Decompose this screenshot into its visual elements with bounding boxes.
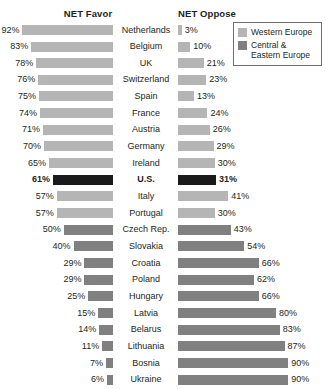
chart-row: 40%Slovakia54% — [0, 239, 326, 256]
net-oppose-bar — [178, 108, 207, 118]
net-oppose-value: 23% — [209, 74, 227, 84]
net-oppose-value: 30% — [218, 208, 236, 218]
country-label: Germany — [116, 141, 176, 151]
net-oppose-bar — [178, 75, 206, 85]
net-favor-bar — [49, 158, 113, 168]
net-favor-bar — [43, 125, 113, 135]
net-favor-bar — [53, 175, 113, 185]
country-label: U.S. — [116, 174, 176, 184]
net-oppose-bar — [178, 125, 210, 135]
net-oppose-value: 13% — [197, 91, 215, 101]
net-favor-bar — [36, 58, 113, 68]
chart-row: 70%Germany29% — [0, 139, 326, 156]
net-favor-value: 65% — [28, 158, 46, 168]
country-label: Latvia — [116, 308, 176, 318]
net-oppose-value: 3% — [185, 25, 198, 35]
net-oppose-bar — [178, 291, 259, 301]
net-oppose-bar — [178, 91, 194, 101]
country-label: Austria — [116, 124, 176, 134]
net-favor-bar — [99, 325, 113, 335]
net-oppose-bar — [178, 308, 276, 318]
country-label: Belgium — [116, 41, 176, 51]
legend-item-label: Central & Eastern Europe — [251, 40, 310, 61]
net-favor-value: 11% — [82, 341, 99, 351]
net-oppose-bar — [178, 175, 216, 185]
chart-row: 57%Italy41% — [0, 189, 326, 206]
net-favor-bar — [38, 75, 113, 85]
net-oppose-value: 62% — [257, 274, 275, 284]
net-favor-bar — [84, 275, 113, 285]
legend-item: Western Europe — [238, 27, 317, 38]
net-favor-bar — [57, 191, 113, 201]
net-favor-bar — [31, 42, 113, 52]
chart-row: 14%Belarus83% — [0, 322, 326, 339]
country-label: Slovakia — [116, 241, 176, 251]
net-favor-value: 75% — [18, 91, 36, 101]
chart-row: 29%Poland62% — [0, 272, 326, 289]
chart-row: 15%Latvia80% — [0, 306, 326, 323]
net-favor-value: 25% — [67, 291, 85, 301]
chart-row: 57%Portugal30% — [0, 206, 326, 223]
net-favor-bar — [98, 308, 113, 318]
net-oppose-bar — [178, 325, 280, 335]
country-label: Lithuania — [116, 341, 176, 351]
net-oppose-bar — [178, 208, 215, 218]
net-oppose-bar — [178, 225, 231, 235]
column-header-net-oppose: NET Oppose — [178, 8, 236, 19]
net-favor-bar — [57, 208, 113, 218]
net-oppose-bar — [178, 341, 285, 351]
country-label: Ireland — [116, 158, 176, 168]
chart-row: 11%Lithuania87% — [0, 339, 326, 356]
net-oppose-bar — [178, 375, 288, 385]
net-oppose-value: 10% — [193, 41, 211, 51]
net-favor-value: 15% — [77, 308, 95, 318]
net-favor-bar — [84, 258, 113, 268]
chart-row: 50%Czech Rep.43% — [0, 222, 326, 239]
net-favor-value: 40% — [53, 241, 71, 251]
net-favor-value: 57% — [36, 208, 54, 218]
chart-row: 7%Bosnia90% — [0, 356, 326, 373]
net-favor-bar — [88, 291, 113, 301]
net-oppose-value: 90% — [291, 374, 309, 384]
legend-swatch-western-europe — [238, 28, 247, 37]
net-oppose-value: 83% — [283, 324, 301, 334]
net-favor-value: 29% — [63, 274, 81, 284]
column-header-net-favor: NET Favor — [0, 8, 176, 19]
country-label: Bosnia — [116, 358, 176, 368]
country-label: Spain — [116, 91, 176, 101]
net-favor-bar — [74, 241, 113, 251]
net-favor-value: 57% — [36, 191, 54, 201]
net-oppose-value: 21% — [207, 58, 225, 68]
net-favor-value: 6% — [91, 374, 104, 384]
chart-row: 74%France24% — [0, 106, 326, 123]
country-label: Czech Rep. — [116, 224, 176, 234]
chart-row: 6%Ukraine90% — [0, 372, 326, 389]
country-label: Hungary — [116, 291, 176, 301]
country-label: Netherlands — [116, 25, 176, 35]
net-oppose-value: 29% — [217, 141, 235, 151]
net-oppose-bar — [178, 58, 204, 68]
net-favor-bar — [106, 358, 113, 368]
net-oppose-bar — [178, 275, 254, 285]
chart-row: 25%Hungary66% — [0, 289, 326, 306]
chart-row: 65%Ireland30% — [0, 156, 326, 173]
net-favor-value: 61% — [32, 174, 50, 184]
chart-row: 75%Spain13% — [0, 89, 326, 106]
chart-row: 29%Croatia66% — [0, 256, 326, 273]
country-label: Italy — [116, 191, 176, 201]
net-favor-value: 50% — [43, 224, 61, 234]
net-favor-value: 76% — [17, 74, 35, 84]
net-favor-value: 14% — [78, 324, 96, 334]
country-label: Poland — [116, 274, 176, 284]
chart-row: 61%U.S.31% — [0, 172, 326, 189]
country-label: UK — [116, 58, 176, 68]
net-oppose-bar — [178, 141, 214, 151]
net-favor-bar — [44, 141, 113, 151]
net-favor-bar — [39, 91, 113, 101]
net-oppose-value: 66% — [262, 291, 280, 301]
net-oppose-value: 31% — [219, 174, 237, 184]
net-favor-bar — [22, 25, 113, 35]
net-oppose-bar — [178, 25, 182, 35]
net-oppose-bar — [178, 358, 288, 368]
